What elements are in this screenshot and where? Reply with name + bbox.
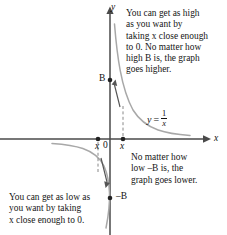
equation-lhs: y xyxy=(147,114,151,125)
annotation-top-right: You can get as high as you want by takin… xyxy=(126,8,208,76)
marker-dot-b xyxy=(108,78,113,83)
marker-label-b: B xyxy=(99,73,105,83)
annotation-bottom-left-line-2: you want by taking xyxy=(9,203,90,214)
annotation-bottom-right-line-1: No matter how xyxy=(131,152,197,163)
annotation-top-right-line-4: to 0. No matter how xyxy=(126,42,208,53)
figure-hyperbola-limit: y x 0 B –B x x y = 1 x You can get as hi… xyxy=(0,0,227,235)
marker-label-x-right: x xyxy=(120,141,124,151)
annotation-top-right-line-1: You can get as high xyxy=(126,8,208,19)
annotation-bottom-left-line-3: x close enough to 0. xyxy=(9,215,90,226)
annotation-bottom-right-line-2: low –B is, the xyxy=(131,163,197,174)
origin-label: 0 xyxy=(103,140,108,150)
equation-denominator: x xyxy=(161,118,167,128)
equation-fraction: 1 x xyxy=(161,110,167,129)
marker-label-neg-b: –B xyxy=(116,191,127,201)
marker-label-x-left: x xyxy=(95,141,99,151)
annotation-bottom-left-line-1: You can get as low as xyxy=(9,192,90,203)
annotation-top-right-line-2: as you want by xyxy=(126,19,208,30)
marker-dot-neg-b xyxy=(108,196,113,201)
arrow-curve-up xyxy=(112,80,120,108)
y-axis-label: y xyxy=(111,2,115,12)
annotation-top-right-line-3: taking x close enough xyxy=(126,31,208,42)
annotation-bottom-left: You can get as low as you want by taking… xyxy=(9,192,90,226)
arrow-curve-down xyxy=(101,158,110,188)
equation-numerator: 1 xyxy=(161,110,167,119)
annotation-bottom-right-line-3: graph goes lower. xyxy=(131,175,197,186)
equation-equals: = xyxy=(153,114,159,125)
curve-equation-label: y = 1 x xyxy=(147,110,167,129)
annotation-top-right-line-6: goes higher. xyxy=(126,64,208,75)
x-axis-label: x xyxy=(214,133,218,143)
annotation-bottom-right: No matter how low –B is, the graph goes … xyxy=(131,152,197,186)
annotation-top-right-line-5: high B is, the graph xyxy=(126,53,208,64)
